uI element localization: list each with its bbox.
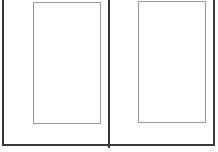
- center-divider: [108, 0, 110, 148]
- left-page-content-area: [33, 2, 101, 124]
- right-page-content-area: [138, 1, 206, 123]
